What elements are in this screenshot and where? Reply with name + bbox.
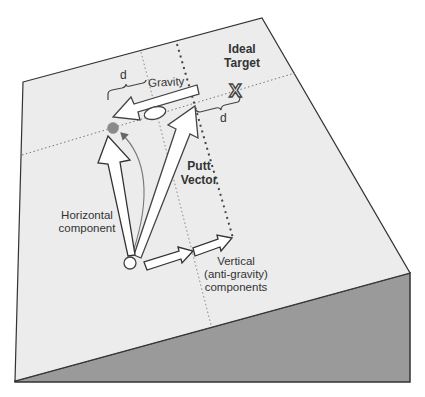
ideal-target-label: Ideal Target xyxy=(215,43,269,71)
horizontal-line2: component xyxy=(56,222,118,235)
vertical-line2: (anti-gravity) xyxy=(200,268,272,281)
d-label-right: d xyxy=(220,112,227,126)
start-ball xyxy=(124,257,136,269)
putt-vector-line2: Vector xyxy=(174,174,224,188)
putt-vector-line1: Putt xyxy=(174,160,224,174)
ideal-target-line2: Target xyxy=(215,57,269,71)
ideal-target-line1: Ideal xyxy=(215,43,269,57)
horizontal-component-label: Horizontal component xyxy=(56,209,118,235)
diagram-canvas xyxy=(0,0,425,397)
putting-diagram: X Ideal Target Gravity d d Putt Vector H… xyxy=(0,0,425,397)
gray-ball xyxy=(108,123,119,134)
d-label-left: d xyxy=(120,69,127,83)
vertical-line3: components xyxy=(200,281,272,294)
vertical-components-label: Vertical (anti-gravity) components xyxy=(200,255,272,295)
horizontal-line1: Horizontal xyxy=(56,209,118,222)
gravity-label: Gravity xyxy=(148,75,185,90)
putt-vector-label: Putt Vector xyxy=(174,160,224,188)
vertical-line1: Vertical xyxy=(200,255,272,268)
target-x-marker: X xyxy=(229,80,242,102)
